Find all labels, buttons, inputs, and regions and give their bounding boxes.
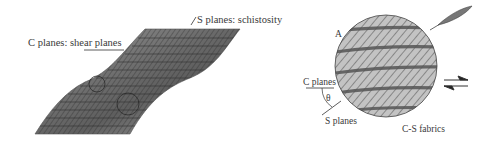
cs-fabric-circle [330,10,445,125]
mica-fish-icon [430,6,472,30]
s-planes-leader [191,17,196,25]
s-plane-line [322,101,341,115]
c-planes-shear-label: C planes: shear planes [28,37,122,48]
shear-sense-arrows-icon [444,76,468,90]
s-planes-label: S planes [325,116,357,127]
point-a-label: A [335,29,342,40]
theta-label: θ [326,93,331,104]
cs-fabrics-caption: C-S fabrics [402,124,445,135]
s-planes-schistosity-label: S planes: schistosity [197,14,282,25]
c-planes-label: C planes [303,77,336,88]
